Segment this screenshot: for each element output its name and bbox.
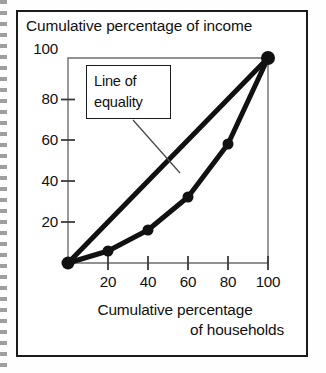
callout-line-2: equality bbox=[94, 94, 143, 110]
x-axis-label-20: 20 bbox=[88, 274, 128, 290]
callout-leader-line bbox=[133, 120, 180, 173]
y-axis-label-80: 80 bbox=[18, 91, 58, 107]
y-axis-label-100: 100 bbox=[18, 41, 58, 57]
data-point-0 bbox=[62, 257, 75, 270]
x-axis-label-40: 40 bbox=[128, 274, 168, 290]
y-axis-label-40: 40 bbox=[18, 173, 58, 189]
x-axis-label-100: 100 bbox=[248, 274, 288, 290]
x-axis-label-60: 60 bbox=[168, 274, 208, 290]
callout-text-block: Line of equality bbox=[94, 71, 168, 113]
x-axis-title-line-1: Cumulative percentage bbox=[60, 300, 290, 320]
callout-line-1: Line of bbox=[94, 73, 136, 89]
data-point-100 bbox=[261, 51, 275, 65]
line-of-equality-callout: Line of equality bbox=[86, 65, 171, 119]
data-point-40 bbox=[143, 225, 154, 236]
y-axis-label-60: 60 bbox=[18, 132, 58, 148]
data-point-20 bbox=[103, 246, 114, 257]
figure-root: Cumulative percentage of income bbox=[0, 0, 326, 373]
data-point-60 bbox=[183, 192, 194, 203]
x-axis-label-80: 80 bbox=[208, 274, 248, 290]
x-axis-title-line-2: of households bbox=[60, 320, 290, 340]
y-axis-label-20: 20 bbox=[18, 214, 58, 230]
data-point-80 bbox=[223, 139, 234, 150]
x-axis-title: Cumulative percentage of households bbox=[60, 300, 290, 339]
